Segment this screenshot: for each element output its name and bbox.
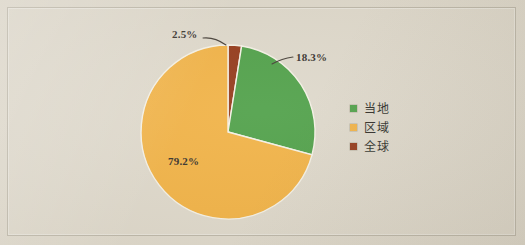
- legend-label-local: 当地: [364, 103, 389, 115]
- pie-plot-area: 2.5% 18.3% 79.2%: [0, 0, 525, 245]
- legend-label-regional: 区域: [364, 122, 389, 134]
- pie-chart-svg: [0, 0, 525, 245]
- legend-swatch-local: [350, 105, 357, 112]
- data-label-local: 18.3%: [296, 51, 327, 63]
- legend-item-local[interactable]: 当地: [350, 99, 420, 118]
- legend-swatch-global: [350, 143, 357, 150]
- leader-line-global: [203, 38, 226, 45]
- chart-legend: 当地 区域 全球: [350, 99, 420, 156]
- legend-item-regional[interactable]: 区域: [350, 118, 420, 137]
- data-label-global: 2.5%: [172, 28, 198, 40]
- data-label-regional: 79.2%: [168, 155, 199, 167]
- legend-item-global[interactable]: 全球: [350, 137, 420, 156]
- chart-canvas: 2.5% 18.3% 79.2% 当地 区域 全球: [0, 0, 525, 245]
- legend-label-global: 全球: [364, 141, 389, 153]
- legend-swatch-regional: [350, 124, 357, 131]
